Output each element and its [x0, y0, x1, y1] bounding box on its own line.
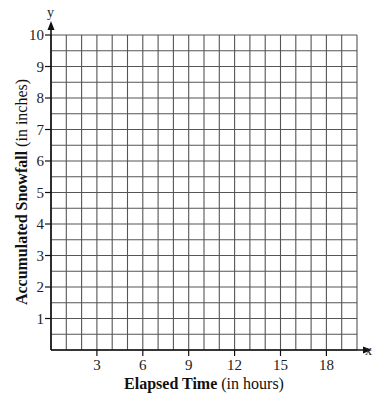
- y-axis-title: Accumulated Snowfall (in inches): [13, 79, 31, 305]
- axes: [48, 21, 373, 354]
- x-axis-letter: x: [365, 343, 372, 358]
- y-tick-label: 3: [37, 248, 45, 264]
- x-axis-title-unit: (in hours): [221, 375, 284, 393]
- y-axis-arrow-icon: [48, 21, 55, 30]
- y-tick-label: 6: [37, 153, 45, 169]
- x-tick-label: 15: [273, 357, 288, 373]
- x-axis-title-main: Elapsed Time: [124, 375, 217, 393]
- x-axis-ticks: 369121518: [93, 350, 334, 373]
- grid-lines: [51, 35, 357, 350]
- y-axis-title-unit: (in inches): [13, 79, 31, 147]
- y-tick-label: 9: [37, 59, 45, 75]
- y-tick-label: 7: [37, 122, 45, 138]
- snowfall-chart: 369121518 12345678910 x y Elapsed Time (…: [0, 0, 386, 404]
- y-tick-label: 5: [37, 185, 45, 201]
- x-tick-label: 9: [185, 357, 193, 373]
- y-tick-label: 8: [37, 90, 45, 106]
- y-tick-label: 10: [29, 27, 44, 43]
- x-tick-label: 6: [139, 357, 147, 373]
- y-axis-letter: y: [47, 5, 54, 20]
- x-tick-label: 18: [319, 357, 334, 373]
- y-tick-label: 1: [37, 311, 45, 327]
- x-tick-label: 12: [227, 357, 242, 373]
- y-axis-title-main: Accumulated Snowfall: [13, 150, 30, 305]
- x-tick-label: 3: [93, 357, 101, 373]
- y-tick-label: 2: [37, 279, 45, 295]
- y-axis-ticks: 12345678910: [29, 27, 51, 327]
- x-axis-title: Elapsed Time (in hours): [124, 375, 284, 393]
- y-tick-label: 4: [37, 216, 45, 232]
